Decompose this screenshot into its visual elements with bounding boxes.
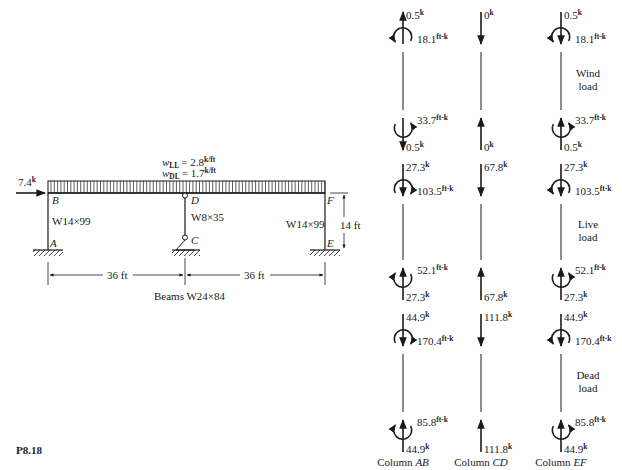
load-case-label: load <box>579 231 598 243</box>
section-ab: W14×99 <box>52 215 91 227</box>
distributed-load <box>48 181 325 193</box>
svg-text:36 ft: 36 ft <box>244 269 264 281</box>
bottom-force-label: 44.9k <box>406 442 430 455</box>
joint-d: D <box>190 194 199 206</box>
bottom-moment-label: 33.7ft-k <box>575 113 607 126</box>
top-moment-label: 170.4ft-k <box>417 334 454 347</box>
column-free-body: 44.9k44.9k170.4ft-k85.8ft-k <box>394 310 455 455</box>
load-case-label: load <box>579 382 598 394</box>
section-ef: W14×99 <box>286 218 325 230</box>
free-body-diagrams: 0.5k0.5k18.1ft-k33.7ft-k0k0k0.5k0.5k18.1… <box>377 8 612 468</box>
top-moment-label: 18.1ft-k <box>417 32 449 45</box>
bottom-force-label: 0.5k <box>564 140 583 153</box>
column-free-body: 0.5k0.5k18.1ft-k33.7ft-k <box>394 8 449 153</box>
ground-c <box>172 250 200 256</box>
top-force-label: 67.8k <box>484 160 508 173</box>
top-moment-label: 103.5ft-k <box>417 184 454 197</box>
column-label: Column EF <box>535 456 587 468</box>
bottom-force-label: 27.3k <box>564 290 588 303</box>
frame-diagram: 7.4k wLL= 2.8k/ft wDL= 1.7k/ft B A D C F… <box>16 155 360 302</box>
load-case-label: load <box>579 80 598 92</box>
joint-a: A <box>49 237 57 249</box>
bottom-moment-label: 52.1ft-k <box>417 263 449 276</box>
beams-label: Beams W24×84 <box>154 290 226 302</box>
column-free-body: 111.8k111.8k <box>481 310 513 455</box>
column-free-body: 67.8k67.8k <box>481 160 508 303</box>
section-cd: W8×35 <box>191 211 225 223</box>
joint-e: E <box>326 237 334 249</box>
load-case-label: Live <box>578 218 598 230</box>
bottom-force-label: 67.8k <box>484 290 508 303</box>
bottom-force-label: 0k <box>484 140 495 153</box>
hinge-d <box>183 193 188 198</box>
top-force-label: 0k <box>484 8 495 21</box>
bottom-force-label: 111.8k <box>484 442 513 455</box>
fixed-support-e <box>310 250 340 256</box>
bottom-force-label: 27.3k <box>406 290 430 303</box>
load-case-label: Dead <box>576 369 600 381</box>
bottom-moment-label: 85.8ft-k <box>417 415 449 428</box>
span-dimensions: 36 ft 36 ft <box>48 258 325 285</box>
load-case-label: Wind <box>576 67 600 79</box>
column-label: Column AB <box>377 456 429 468</box>
bottom-moment-label: 52.1ft-k <box>575 263 607 276</box>
top-moment-label: 18.1ft-k <box>575 32 607 45</box>
top-force-label: 44.9k <box>406 310 430 323</box>
joint-c: C <box>191 234 199 246</box>
fixed-support-a <box>33 250 63 256</box>
bottom-moment-label: 85.8ft-k <box>575 415 607 428</box>
column-free-body: 27.3k27.3k103.5ft-k52.1ft-k <box>394 160 455 303</box>
height-dimension: 14 ft <box>330 193 360 248</box>
svg-text:14 ft: 14 ft <box>340 219 360 231</box>
top-moment-label: 170.4ft-k <box>575 334 612 347</box>
joint-b: B <box>52 194 59 206</box>
bottom-force-label: 44.9k <box>564 442 588 455</box>
figure-canvas: 7.4k wLL= 2.8k/ft wDL= 1.7k/ft B A D C F… <box>0 0 622 470</box>
column-label: Column CD <box>454 456 508 468</box>
joint-f: F <box>326 194 334 206</box>
load-case-row: 44.9k44.9k170.4ft-k85.8ft-k111.8k111.8k4… <box>394 310 613 455</box>
top-force-label: 0.5k <box>564 8 583 21</box>
top-force-label: 111.8k <box>484 310 513 323</box>
column-free-body: 0k0k <box>481 8 495 153</box>
svg-text:36 ft: 36 ft <box>107 269 127 281</box>
bottom-moment-label: 33.7ft-k <box>417 113 449 126</box>
top-moment-label: 103.5ft-k <box>575 184 612 197</box>
bottom-force-label: 0.5k <box>406 140 425 153</box>
load-case-row: 27.3k27.3k103.5ft-k52.1ft-k67.8k67.8k27.… <box>394 160 613 303</box>
lateral-load-label: 7.4k <box>18 175 37 188</box>
top-force-label: 27.3k <box>564 160 588 173</box>
problem-label: P8.18 <box>16 444 42 456</box>
hinge-c <box>183 235 188 240</box>
load-case-row: 0.5k0.5k18.1ft-k33.7ft-k0k0k0.5k0.5k18.1… <box>394 8 607 153</box>
top-force-label: 27.3k <box>406 160 430 173</box>
top-force-label: 44.9k <box>564 310 588 323</box>
top-force-label: 0.5k <box>406 8 425 21</box>
